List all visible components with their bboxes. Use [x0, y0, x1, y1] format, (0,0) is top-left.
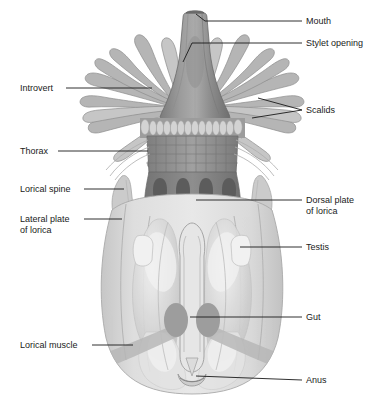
scalid-oval-band — [140, 118, 245, 138]
label-scalids: Scalids — [306, 105, 336, 115]
anatomy-diagram: Mouth Stylet opening Scalids Dorsal plat… — [0, 0, 385, 407]
label-mouth: Mouth — [306, 16, 331, 26]
mouth-opening — [186, 11, 204, 13]
label-gut: Gut — [306, 312, 321, 322]
label-introvert: Introvert — [20, 83, 54, 93]
gut-sac-right — [196, 303, 220, 337]
lorica-body — [101, 194, 283, 394]
label-anus: Anus — [306, 375, 327, 385]
gut-sac-left — [164, 303, 188, 337]
leader-mouth — [196, 14, 302, 21]
label-testis: Testis — [306, 242, 330, 252]
label-lorical-muscle: Lorical muscle — [20, 340, 78, 350]
label-lorical-spine: Lorical spine — [20, 184, 71, 194]
label-dorsal-plate: Dorsal plate — [306, 195, 354, 205]
label-stylet-opening: Stylet opening — [306, 38, 363, 48]
label-lateral-plate: Lateral plate — [20, 214, 70, 224]
label-thorax: Thorax — [20, 146, 49, 156]
figure-canvas: Mouth Stylet opening Scalids Dorsal plat… — [0, 0, 385, 407]
thorax-segment — [146, 136, 239, 174]
label-dorsal-plate-line2: of lorica — [306, 206, 338, 216]
label-lateral-plate-line2: of lorica — [20, 225, 52, 235]
stylet-opening-marker — [186, 36, 204, 88]
